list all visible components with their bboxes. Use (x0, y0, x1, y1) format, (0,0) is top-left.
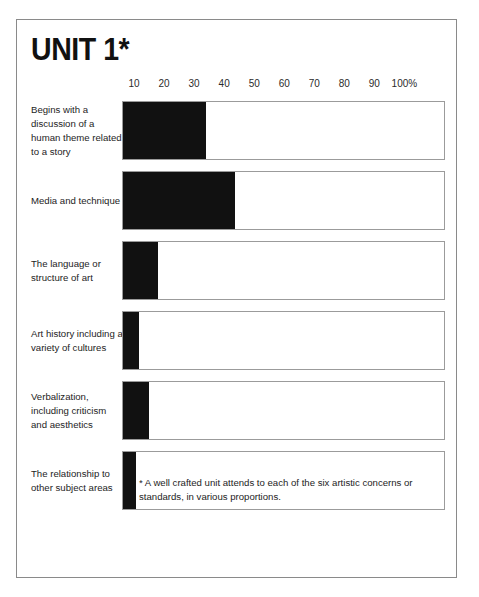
axis-tick-70: 70 (309, 78, 320, 89)
axis-tick-100: 100% (392, 78, 418, 89)
bar-row: Media and technique (17, 166, 458, 236)
bar-rows: Begins with a discussion of a human them… (17, 96, 458, 516)
bar-row-label: The language or structure of art (31, 257, 123, 285)
bar-track (122, 381, 445, 440)
axis-tick-60: 60 (279, 78, 290, 89)
bar-track (122, 171, 445, 230)
axis-tick-labels: 102030405060708090100% (122, 78, 445, 94)
axis-tick-90: 90 (369, 78, 380, 89)
footnote-text: * A well crafted unit attends to each of… (139, 476, 439, 504)
bar-fill (123, 172, 235, 229)
bar-row: Art history including a variety of cultu… (17, 306, 458, 376)
page-root: UNIT 1* 102030405060708090100% Begins wi… (0, 0, 479, 597)
bar-fill (123, 382, 149, 439)
bar-row-label: Verbalization, including criticism and a… (31, 390, 123, 432)
bar-fill (123, 312, 139, 369)
bar-fill (123, 452, 136, 509)
axis-tick-40: 40 (219, 78, 230, 89)
bar-track (122, 241, 445, 300)
bar-row-label: The relationship to other subject areas (31, 467, 123, 495)
bar-row-label: Media and technique (31, 194, 123, 208)
bar-track (122, 311, 445, 370)
bar-row-label: Begins with a discussion of a human them… (31, 103, 123, 159)
bar-row: The language or structure of art (17, 236, 458, 306)
bar-row: Begins with a discussion of a human them… (17, 96, 458, 166)
axis-tick-30: 30 (189, 78, 200, 89)
axis-tick-50: 50 (249, 78, 260, 89)
bar-row-label: Art history including a variety of cultu… (31, 327, 123, 355)
axis-tick-10: 10 (128, 78, 139, 89)
unit-card: UNIT 1* 102030405060708090100% Begins wi… (16, 19, 457, 578)
axis-tick-20: 20 (159, 78, 170, 89)
bar-fill (123, 102, 206, 159)
axis-tick-80: 80 (339, 78, 350, 89)
bar-track (122, 101, 445, 160)
bar-row: Verbalization, including criticism and a… (17, 376, 458, 446)
bar-fill (123, 242, 158, 299)
